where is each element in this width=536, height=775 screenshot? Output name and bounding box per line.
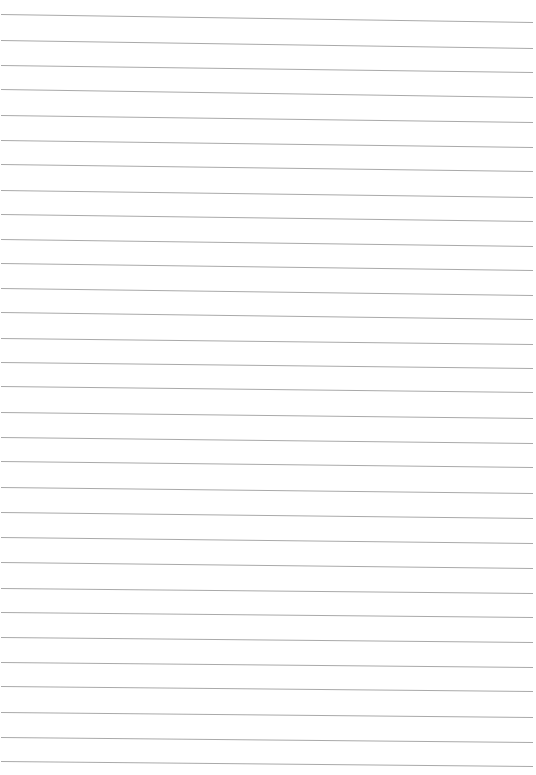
ruled-line xyxy=(1,513,533,519)
ruled-line xyxy=(1,264,533,271)
ruled-line xyxy=(1,313,533,320)
ruled-line xyxy=(1,90,533,98)
ruled-line xyxy=(1,289,533,296)
ruled-line xyxy=(1,116,533,123)
ruled-line xyxy=(1,240,533,247)
ruled-line xyxy=(1,589,533,594)
ruled-line xyxy=(1,613,533,618)
ruled-line xyxy=(1,363,533,369)
ruled-line xyxy=(1,663,533,668)
ruled-line xyxy=(1,488,533,494)
ruled-line xyxy=(1,538,533,544)
ruled-line xyxy=(1,15,533,23)
ruled-line xyxy=(1,339,533,345)
ruled-line xyxy=(1,438,533,444)
ruled-line xyxy=(1,66,533,73)
ruled-line xyxy=(1,215,533,222)
ruled-line xyxy=(1,41,533,49)
ruled-line xyxy=(1,387,533,393)
lined-paper-sheet xyxy=(0,0,536,775)
ruled-line xyxy=(1,762,533,767)
ruled-line xyxy=(1,563,533,569)
ruled-line xyxy=(1,191,533,198)
ruled-line xyxy=(1,141,533,148)
ruled-line xyxy=(1,638,533,643)
ruled-line xyxy=(1,165,533,172)
ruled-line xyxy=(1,687,533,692)
ruled-lines xyxy=(0,0,536,775)
ruled-line xyxy=(1,713,533,718)
ruled-line xyxy=(1,413,533,419)
ruled-line xyxy=(1,462,533,468)
ruled-line xyxy=(1,738,533,743)
